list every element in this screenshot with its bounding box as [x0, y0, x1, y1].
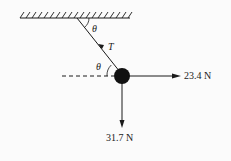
vertical-force-arrowhead [120, 120, 125, 128]
free-body-diagram: θ T θ 23.4 N 31.7 N [0, 0, 231, 161]
horizontal-force-label: 23.4 N [184, 71, 211, 81]
top-angle-label: θ [92, 24, 97, 34]
ceiling-hatching [20, 12, 132, 18]
tension-label: T [108, 42, 114, 52]
ball [114, 68, 130, 84]
bottom-angle-arc [107, 65, 111, 76]
bottom-angle-label: θ [96, 62, 101, 72]
vertical-force-label: 31.7 N [106, 133, 133, 143]
horizontal-force-arrowhead [172, 74, 181, 79]
ceiling [20, 12, 132, 18]
top-angle-arc [85, 18, 90, 27]
